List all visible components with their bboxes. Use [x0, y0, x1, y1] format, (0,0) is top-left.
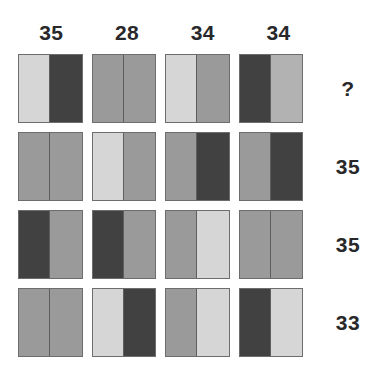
tile-half-left [240, 55, 271, 122]
tile-r2c2 [92, 132, 157, 201]
tile-r2c1 [18, 132, 83, 201]
tile-half-left [93, 133, 124, 200]
grid-row: 35 [18, 132, 312, 201]
column-header-row: 35 28 34 34 [18, 18, 312, 48]
tile-half-left [19, 133, 50, 200]
tile-half-right [197, 133, 228, 200]
tile-half-right [197, 55, 228, 122]
tile-r2c3 [165, 132, 230, 201]
tile-half-left [240, 211, 271, 278]
tile-half-left [166, 133, 197, 200]
row-label-1: ? [321, 54, 368, 123]
tile-half-right [124, 211, 155, 278]
tile-half-right [271, 133, 302, 200]
tile-half-left [19, 55, 50, 122]
tile-half-right [271, 289, 302, 356]
tile-r3c1 [18, 210, 83, 279]
tile-half-left [166, 289, 197, 356]
tile-half-left [166, 55, 197, 122]
tile-r4c2 [92, 288, 157, 357]
column-header-3: 34 [170, 18, 237, 48]
row-label-4: 33 [321, 288, 368, 357]
tile-half-right [271, 211, 302, 278]
grid-row: 33 [18, 288, 312, 357]
grid-row: ? [18, 54, 312, 123]
tile-r1c4 [239, 54, 304, 123]
tile-r4c3 [165, 288, 230, 357]
tile-half-left [240, 289, 271, 356]
tile-half-right [50, 133, 81, 200]
tile-half-left [93, 55, 124, 122]
tile-half-right [124, 133, 155, 200]
tile-half-left [240, 133, 271, 200]
column-header-2: 28 [94, 18, 161, 48]
column-header-1: 35 [18, 18, 85, 48]
tile-half-right [124, 289, 155, 356]
tile-half-right [50, 289, 81, 356]
tile-half-left [19, 289, 50, 356]
row-label-2: 35 [321, 132, 368, 201]
tile-r3c2 [92, 210, 157, 279]
column-header-4: 34 [245, 18, 312, 48]
tile-half-left [93, 211, 124, 278]
tile-half-left [19, 211, 50, 278]
tile-half-right [50, 211, 81, 278]
tile-half-right [197, 211, 228, 278]
tile-r2c4 [239, 132, 304, 201]
tile-r4c1 [18, 288, 83, 357]
tile-half-right [271, 55, 302, 122]
tile-half-right [50, 55, 81, 122]
grid-row: 35 [18, 210, 312, 279]
tile-half-left [93, 289, 124, 356]
row-label-3: 35 [321, 210, 368, 279]
tile-r3c3 [165, 210, 230, 279]
tile-r4c4 [239, 288, 304, 357]
puzzle-figure: 35 28 34 34 ? [0, 0, 368, 376]
tile-half-right [124, 55, 155, 122]
tile-r1c3 [165, 54, 230, 123]
stimulus-grid: ? 35 [18, 54, 312, 356]
tile-r1c2 [92, 54, 157, 123]
tile-half-right [197, 289, 228, 356]
tile-r1c1 [18, 54, 83, 123]
tile-half-left [166, 211, 197, 278]
tile-r3c4 [239, 210, 304, 279]
